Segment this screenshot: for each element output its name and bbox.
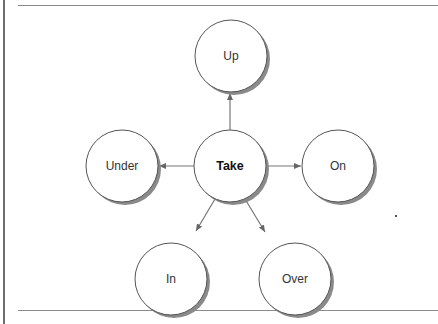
node-label-over: Over [282, 272, 308, 286]
node-take[interactable]: Take [194, 130, 269, 205]
node-in[interactable]: In [135, 243, 210, 318]
node-label-take: Take [216, 159, 244, 173]
node-label-up: Up [223, 49, 239, 63]
take-prepositions-diagram: Up Under Take On In Over [0, 0, 438, 324]
node-label-on: On [330, 159, 346, 173]
node-on[interactable]: On [302, 130, 377, 205]
node-up[interactable]: Up [195, 20, 270, 95]
node-over[interactable]: Over [259, 243, 334, 318]
node-label-under: Under [106, 159, 139, 173]
stray-dot [395, 215, 397, 217]
node-label-in: In [166, 272, 176, 286]
node-under[interactable]: Under [86, 130, 161, 205]
edge-take-over [245, 199, 265, 232]
edge-take-in [196, 199, 215, 231]
